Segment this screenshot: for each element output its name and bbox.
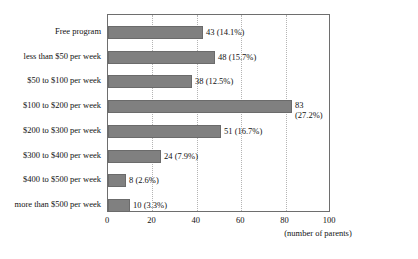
category-axis-labels: Free programless than $50 per week$50 to… — [0, 14, 104, 212]
bar-row: 83 (27.2%) — [108, 100, 331, 113]
bar-value-label: 48 (15.7%) — [218, 53, 256, 63]
plot-area: 43 (14.1%)48 (15.7%)38 (12.5%)83 (27.2%)… — [107, 14, 330, 212]
category-label: $200 to $300 per week — [23, 124, 101, 137]
x-axis-label: (number of parents) — [284, 228, 352, 239]
x-tick-label: 20 — [147, 215, 156, 226]
bar-row: 51 (16.7%) — [108, 125, 331, 138]
bar — [108, 75, 192, 88]
x-tick-label: 80 — [280, 215, 289, 226]
bar-value-label: 43 (14.1%) — [206, 28, 244, 38]
bar-value-label: 38 (12.5%) — [195, 77, 233, 87]
bar-row: 8 (2.6%) — [108, 174, 331, 187]
bar — [108, 174, 126, 187]
bar-value-label: 83 (27.2%) — [295, 101, 331, 120]
bar-row: 24 (7.9%) — [108, 150, 331, 163]
x-tick-label: 60 — [236, 215, 245, 226]
category-label: $300 to $400 per week — [23, 149, 101, 162]
bar-row: 38 (12.5%) — [108, 75, 331, 88]
category-label: $400 to $500 per week — [23, 173, 101, 186]
category-label: less than $50 per week — [24, 50, 101, 63]
bar — [108, 125, 221, 138]
category-label: more than $500 per week — [15, 198, 101, 211]
bar — [108, 199, 130, 212]
bar-row: 48 (15.7%) — [108, 51, 331, 64]
category-label: Free program — [55, 25, 101, 38]
bar-chart-figure: Free programless than $50 per week$50 to… — [0, 0, 418, 259]
bar-row: 10 (3.3%) — [108, 199, 331, 212]
bar — [108, 100, 292, 113]
bar-value-label: 10 (3.3%) — [133, 201, 167, 211]
bar-row: 43 (14.1%) — [108, 26, 331, 39]
x-tick-label: 100 — [323, 215, 336, 226]
x-tick-label: 40 — [192, 215, 201, 226]
bar-value-label: 8 (2.6%) — [129, 176, 159, 186]
bar — [108, 150, 161, 163]
x-tick-label: 0 — [105, 215, 109, 226]
bar-value-label: 24 (7.9%) — [164, 152, 198, 162]
bar-value-label: 51 (16.7%) — [224, 127, 262, 137]
bar — [108, 51, 215, 64]
category-label: $50 to $100 per week — [27, 74, 101, 87]
category-label: $100 to $200 per week — [23, 99, 101, 112]
bar — [108, 26, 203, 39]
x-axis-tick-labels: 020406080100 — [107, 215, 330, 227]
